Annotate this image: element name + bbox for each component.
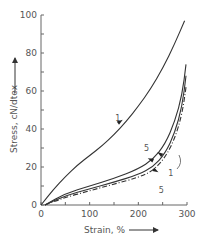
y-axis-title: Stress, cN/dtex (9, 84, 19, 153)
x-tick-label: 300 (178, 209, 195, 219)
direction-arrow-icon (152, 168, 159, 174)
y-tick-label: 40 (26, 124, 38, 134)
x-tick-label: 200 (130, 209, 147, 219)
y-tick-label: 80 (26, 48, 38, 58)
direction-arrow-icon (147, 156, 154, 162)
x-tick-label: 100 (81, 209, 98, 219)
curve-label: 5 (159, 186, 164, 195)
series-curve-4 (45, 87, 186, 205)
bracket-mark (177, 155, 181, 169)
series-curve-1 (41, 21, 185, 205)
x-axis-title: Strain, % (84, 225, 125, 235)
y-tick-label: 20 (26, 162, 38, 172)
curve-label: 1 (168, 169, 173, 178)
y-tick-label: 0 (31, 200, 37, 210)
y-tick-label: 60 (26, 86, 38, 96)
curve-label: 1 (115, 114, 120, 123)
y-tick-label: 100 (20, 10, 37, 20)
stress-strain-chart: 0204060801000100200300 Strain, %Stress, … (0, 0, 204, 244)
axes: 0204060801000100200300 (20, 10, 196, 219)
curves (41, 21, 186, 205)
x-tick-label: 0 (38, 209, 44, 219)
series-curve-3 (45, 76, 186, 205)
curve-label: 5 (144, 144, 149, 153)
